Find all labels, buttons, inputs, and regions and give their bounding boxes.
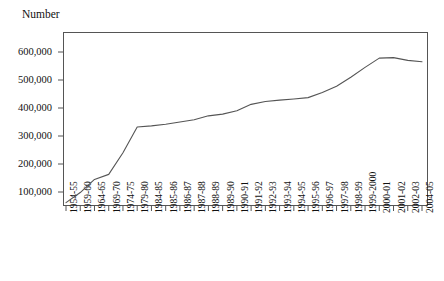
x-axis-tick-label: 1990-91 <box>241 181 251 213</box>
x-axis-tick-label: 2004-05 <box>426 181 436 213</box>
x-axis-tick-label: 1987-88 <box>198 181 208 213</box>
x-axis-tick-label: 1988-89 <box>212 181 222 213</box>
x-axis-tick-label: 1993-94 <box>284 181 294 213</box>
x-axis-tick-label: 1984-85 <box>155 181 165 213</box>
x-axis-tick-label: 1995-96 <box>312 181 322 213</box>
x-axis-tick-label: 2000-01 <box>383 181 393 213</box>
x-axis-tick-label: 1991-92 <box>255 181 265 213</box>
x-axis-tick-label: 1989-90 <box>227 181 237 213</box>
x-axis-tick-label: 1992-93 <box>269 181 279 213</box>
x-axis-tick-label: 1985-86 <box>170 181 180 213</box>
x-axis-tick-label: 1954-55 <box>70 181 80 213</box>
x-axis-tick-label: 1969-70 <box>113 181 123 213</box>
x-axis-tick-label: 2001-02 <box>398 181 408 213</box>
x-axis-tick-label: 2002-03 <box>412 181 422 213</box>
x-axis-tick-label: 1959-60 <box>84 181 94 213</box>
x-axis-tick-label: 1974-75 <box>127 181 137 213</box>
x-axis-tick-label: 1979-80 <box>141 181 151 213</box>
x-axis-tick-label: 1994-95 <box>298 181 308 213</box>
x-axis-tick-label: 1997-98 <box>341 181 351 213</box>
x-axis-tick-label: 1999-2000 <box>369 172 379 213</box>
figure-container: Number 600,000500,000400,000300,000200,0… <box>0 0 444 281</box>
x-axis-tick-labels: 1954-551959-601964-651969-701974-751979-… <box>0 0 444 281</box>
x-axis-tick-label: 1998-99 <box>355 181 365 213</box>
x-axis-tick-label: 1986-87 <box>184 181 194 213</box>
x-axis-tick-label: 1996-97 <box>326 181 336 213</box>
x-axis-tick-label: 1964-65 <box>98 181 108 213</box>
